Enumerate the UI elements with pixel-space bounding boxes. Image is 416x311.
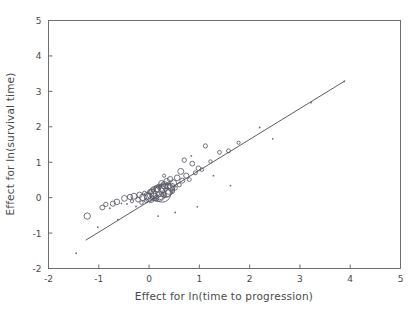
data-point bbox=[230, 185, 232, 187]
data-point bbox=[177, 183, 181, 187]
data-point bbox=[126, 203, 128, 205]
data-point bbox=[209, 160, 212, 163]
data-point bbox=[130, 200, 133, 203]
chart-container: -2-1012345 -2-1012345 Effect for ln(time… bbox=[0, 0, 416, 311]
plot-frame bbox=[49, 21, 401, 269]
x-tick-label: 1 bbox=[196, 274, 202, 284]
data-point bbox=[196, 206, 198, 208]
data-point bbox=[140, 201, 144, 205]
data-point bbox=[75, 252, 77, 254]
data-point bbox=[259, 127, 261, 129]
y-tick-label: 3 bbox=[36, 87, 42, 97]
data-point bbox=[310, 102, 312, 104]
data-point bbox=[343, 81, 345, 83]
data-point bbox=[122, 195, 128, 201]
x-tick-label: 5 bbox=[398, 274, 404, 284]
data-point bbox=[203, 144, 207, 148]
data-point bbox=[182, 158, 186, 162]
data-point bbox=[135, 206, 137, 208]
data-point bbox=[174, 212, 176, 214]
data-point bbox=[174, 175, 180, 181]
y-tick-label: 0 bbox=[36, 193, 42, 203]
data-point bbox=[190, 161, 195, 166]
y-tick-label: 2 bbox=[36, 122, 42, 132]
data-point bbox=[178, 168, 184, 174]
y-axis-title: Effect for ln(survival time) bbox=[4, 72, 16, 215]
x-tick-label: 4 bbox=[347, 274, 353, 284]
scatter-plot: -2-1012345 -2-1012345 Effect for ln(time… bbox=[0, 0, 416, 311]
y-tick-label: 1 bbox=[36, 158, 42, 168]
data-points bbox=[75, 81, 345, 255]
data-point bbox=[84, 213, 90, 219]
x-axis-tick-labels: -2-1012345 bbox=[44, 274, 403, 284]
tick-marks bbox=[49, 21, 401, 269]
data-point bbox=[97, 226, 99, 228]
x-axis-title: Effect for ln(time to progression) bbox=[135, 290, 313, 302]
x-tick-label: 0 bbox=[146, 274, 152, 284]
data-point bbox=[190, 155, 192, 157]
data-point bbox=[157, 215, 159, 217]
y-tick-label: 5 bbox=[36, 16, 42, 26]
data-point bbox=[104, 202, 108, 206]
data-point bbox=[187, 178, 191, 182]
x-tick-label: 3 bbox=[297, 274, 303, 284]
x-tick-label: 2 bbox=[247, 274, 253, 284]
x-tick-label: -1 bbox=[94, 274, 103, 284]
data-point bbox=[121, 202, 123, 204]
y-tick-label: -2 bbox=[33, 264, 42, 274]
data-point bbox=[237, 141, 240, 144]
y-tick-label: -1 bbox=[33, 229, 42, 239]
data-point bbox=[272, 138, 274, 140]
data-point bbox=[213, 175, 215, 177]
data-point bbox=[163, 174, 166, 177]
data-point bbox=[117, 219, 119, 221]
regression-line bbox=[86, 81, 345, 240]
y-axis-tick-labels: -2-1012345 bbox=[33, 16, 42, 274]
data-point bbox=[109, 207, 111, 209]
x-tick-label: -2 bbox=[44, 274, 53, 284]
y-tick-label: 4 bbox=[36, 51, 42, 61]
data-point bbox=[218, 150, 222, 154]
data-point bbox=[184, 173, 189, 178]
